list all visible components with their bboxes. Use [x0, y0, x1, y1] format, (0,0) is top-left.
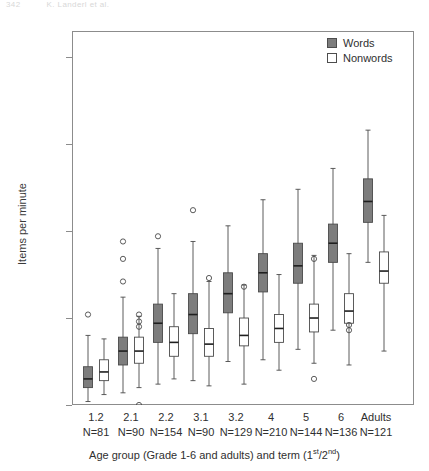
x-axis-title: Age group (Grade 1-6 and adults) and ter…	[0, 449, 429, 461]
y-axis-title: Items per minute	[16, 144, 28, 304]
x-group-sample-size: N=121	[347, 425, 405, 440]
legend-item-nonwords: Nonwords	[327, 50, 413, 65]
plot-area	[72, 31, 414, 405]
legend-item-words: Words	[327, 35, 413, 50]
legend-label: Nonwords	[343, 52, 393, 64]
x-group-label: Adults	[347, 410, 405, 425]
figure-boxplot: 342 K. Landerl et al. Items per minute 0…	[0, 0, 429, 471]
y-axis: Items per minute 050100150200	[0, 0, 72, 471]
x-axis: Age group (Grade 1-6 and adults) and ter…	[0, 405, 429, 471]
legend: WordsNonwords	[327, 31, 413, 65]
legend-label: Words	[343, 37, 375, 49]
x-group-Adults: AdultsN=121	[347, 405, 405, 440]
legend-swatch-icon	[327, 53, 337, 63]
legend-swatch-icon	[327, 38, 337, 48]
